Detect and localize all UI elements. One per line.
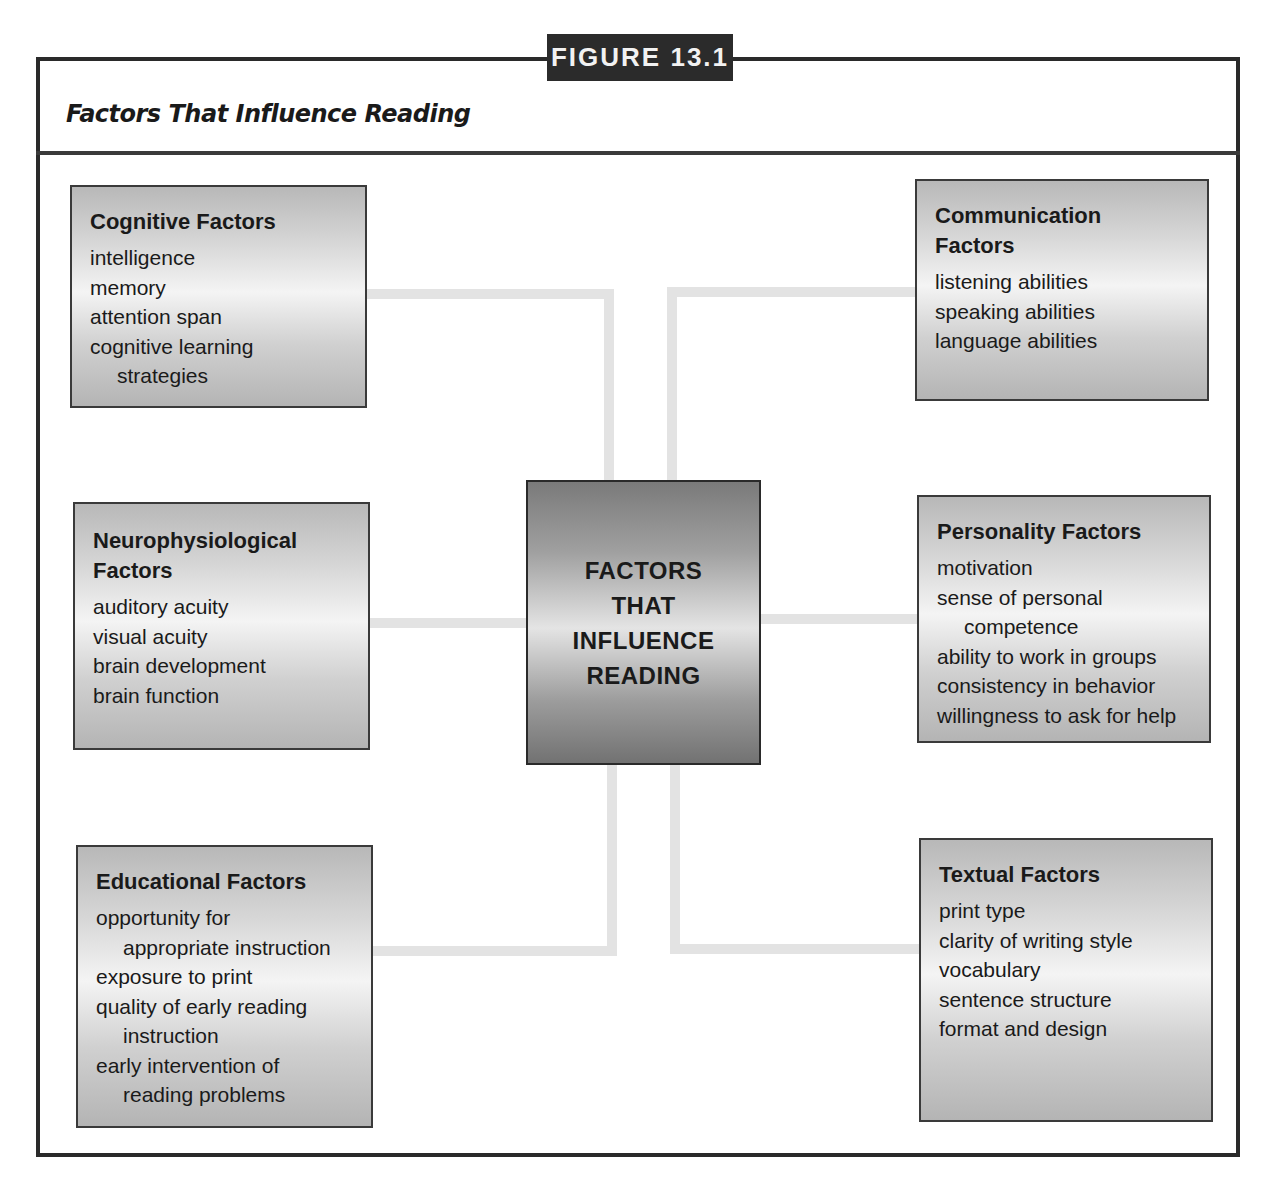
center-line: READING bbox=[586, 658, 700, 693]
center-line: THAT bbox=[611, 588, 675, 623]
center-line: INFLUENCE bbox=[573, 623, 715, 658]
list-item: clarity of writing style bbox=[939, 926, 1193, 956]
list-item: instruction bbox=[96, 1021, 353, 1051]
list-item: competence bbox=[937, 612, 1191, 642]
connector-educational-v bbox=[607, 764, 617, 956]
connector-cognitive-v bbox=[604, 289, 614, 481]
educational-factors-title: Educational Factors bbox=[96, 867, 353, 897]
list-item: brain development bbox=[93, 651, 350, 681]
list-item: motivation bbox=[937, 553, 1191, 583]
list-item: cognitive learning bbox=[90, 332, 347, 362]
communication-factors-list: listening abilities speaking abilities l… bbox=[935, 267, 1189, 356]
list-item: sense of personal bbox=[937, 583, 1191, 613]
neurophysiological-factors-box: Neurophysiological Factors auditory acui… bbox=[73, 502, 370, 750]
list-item: attention span bbox=[90, 302, 347, 332]
list-item: willingness to ask for help bbox=[937, 701, 1191, 731]
list-item: early intervention of bbox=[96, 1051, 353, 1081]
neurophysiological-factors-title: Neurophysiological Factors bbox=[93, 526, 350, 586]
list-item: quality of early reading bbox=[96, 992, 353, 1022]
educational-factors-box: Educational Factors opportunity for appr… bbox=[76, 845, 373, 1128]
connector-textual-v bbox=[670, 764, 680, 954]
central-concept-box: FACTORS THAT INFLUENCE READING bbox=[526, 480, 761, 765]
connector-neurophysiological bbox=[369, 618, 527, 628]
connector-personality bbox=[760, 614, 918, 624]
list-item: opportunity for bbox=[96, 903, 353, 933]
list-item: exposure to print bbox=[96, 962, 353, 992]
list-item: appropriate instruction bbox=[96, 933, 353, 963]
list-item: visual acuity bbox=[93, 622, 350, 652]
connector-cognitive-h bbox=[366, 289, 614, 299]
textual-factors-box: Textual Factors print type clarity of wr… bbox=[919, 838, 1213, 1122]
list-item: consistency in behavior bbox=[937, 671, 1191, 701]
connector-textual-h bbox=[670, 944, 920, 954]
connector-communication-h bbox=[667, 287, 917, 297]
personality-factors-title: Personality Factors bbox=[937, 517, 1191, 547]
list-item: vocabulary bbox=[939, 955, 1193, 985]
figure-label: FIGURE 13.1 bbox=[547, 34, 733, 81]
communication-factors-title: Communication Factors bbox=[935, 201, 1189, 261]
list-item: brain function bbox=[93, 681, 350, 711]
educational-factors-list: opportunity for appropriate instruction … bbox=[96, 903, 353, 1110]
connector-educational-h bbox=[371, 946, 617, 956]
list-item: print type bbox=[939, 896, 1193, 926]
list-item: auditory acuity bbox=[93, 592, 350, 622]
textual-factors-title: Textual Factors bbox=[939, 860, 1193, 890]
list-item: reading problems bbox=[96, 1080, 353, 1110]
cognitive-factors-title: Cognitive Factors bbox=[90, 207, 347, 237]
list-item: intelligence bbox=[90, 243, 347, 273]
communication-factors-box: Communication Factors listening abilitie… bbox=[915, 179, 1209, 401]
list-item: sentence structure bbox=[939, 985, 1193, 1015]
list-item: speaking abilities bbox=[935, 297, 1189, 327]
connector-communication-v bbox=[667, 287, 677, 481]
list-item: memory bbox=[90, 273, 347, 303]
neurophysiological-factors-list: auditory acuity visual acuity brain deve… bbox=[93, 592, 350, 710]
list-item: language abilities bbox=[935, 326, 1189, 356]
personality-factors-list: motivation sense of personal competence … bbox=[937, 553, 1191, 730]
list-item: ability to work in groups bbox=[937, 642, 1191, 672]
list-item: strategies bbox=[90, 361, 347, 391]
cognitive-factors-list: intelligence memory attention span cogni… bbox=[90, 243, 347, 391]
list-item: listening abilities bbox=[935, 267, 1189, 297]
figure-title: Factors That Influence Reading bbox=[66, 100, 470, 128]
textual-factors-list: print type clarity of writing style voca… bbox=[939, 896, 1193, 1044]
cognitive-factors-box: Cognitive Factors intelligence memory at… bbox=[70, 185, 367, 408]
list-item: format and design bbox=[939, 1014, 1193, 1044]
center-line: FACTORS bbox=[585, 553, 703, 588]
personality-factors-box: Personality Factors motivation sense of … bbox=[917, 495, 1211, 743]
